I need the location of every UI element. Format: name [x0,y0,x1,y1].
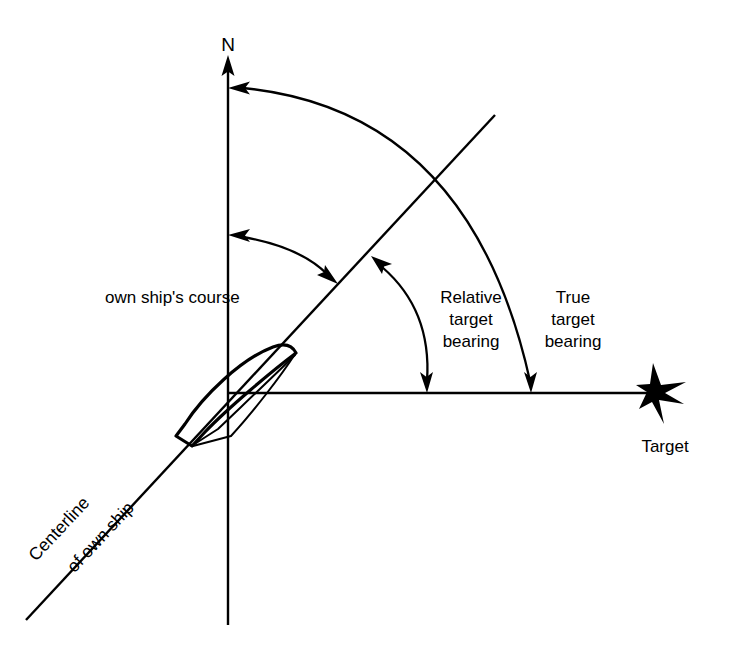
diagram-canvas: N own ship's course Relative target bear… [0,0,730,649]
true-bearing-line-1: True [556,288,590,307]
target-label: Target [641,437,689,456]
ship-deck-line [193,355,295,445]
course-arrow-north [228,229,250,242]
labels-group: N own ship's course Relative target bear… [24,34,689,589]
relative-bearing-line-2: target [449,310,493,329]
true-bearing-line-2: target [551,310,595,329]
own-ship-course-arc-group [228,229,338,284]
relative-bearing-arrow-centerline [371,256,392,274]
relative-bearing-line-3: bearing [443,332,500,351]
true-bearing-line-3: bearing [545,332,602,351]
ship-keel-line [193,354,295,446]
relative-target-bearing-arc [382,267,427,381]
relative-bearing-line-1: Relative [440,288,501,307]
north-label: N [221,34,235,55]
own-ship-course-label: own ship's course [105,288,240,307]
centerline-label: Centerline of own ship [24,473,138,589]
own-ship-course-arc [243,237,327,274]
relative-target-bearing-label: Relative target bearing [440,288,501,351]
bearing-diagram-svg: N own ship's course Relative target bear… [0,0,730,649]
relative-target-bearing-arc-group [371,256,433,393]
true-bearing-arrow-target [524,372,537,393]
true-target-bearing-label: True target bearing [545,288,602,351]
